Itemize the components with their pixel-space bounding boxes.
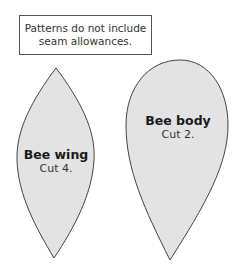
bee-body-shape [126,60,228,260]
bee-body-cut-count: Cut 2. [126,128,230,141]
bee-body-title: Bee body [126,114,230,128]
bee-wing-title: Bee wing [17,148,95,162]
bee-wing-label: Bee wing Cut 4. [17,148,95,175]
bee-wing-cut-count: Cut 4. [17,162,95,175]
bee-body-label: Bee body Cut 2. [126,114,230,141]
